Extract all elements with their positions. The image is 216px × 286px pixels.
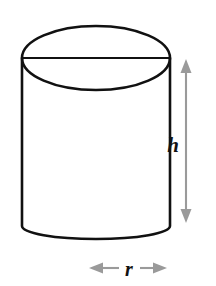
height-arrowhead-down-icon (181, 209, 192, 223)
height-dimension-arrow (181, 59, 192, 223)
height-arrowhead-up-icon (181, 59, 192, 73)
radius-arrowhead-right-icon (153, 263, 167, 274)
cylinder-body-outline (22, 58, 170, 239)
height-label: h (167, 133, 179, 157)
radius-arrowhead-left-icon (89, 263, 103, 274)
radius-label: r (125, 258, 133, 280)
cylinder-diagram-svg: h r (0, 0, 216, 286)
cylinder-figure: h r (0, 0, 216, 286)
